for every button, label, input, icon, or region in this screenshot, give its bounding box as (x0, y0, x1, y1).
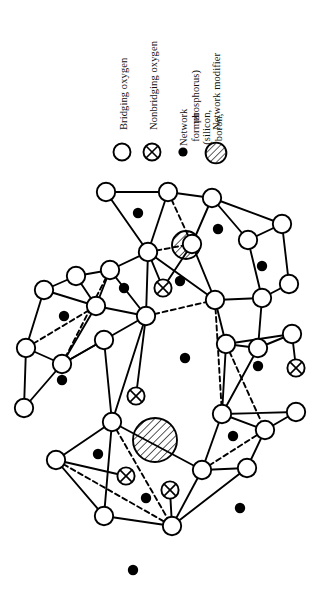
network-former-atom (180, 353, 190, 363)
legend: Bridging oxygen Nonbridging oxygen Netwo… (0, 0, 334, 172)
bridging-oxygen-atom (97, 183, 115, 201)
network-former-atom (253, 361, 263, 371)
bond-dashed (146, 300, 215, 316)
network-former-atom (257, 261, 267, 271)
bridging-oxygen-atom (287, 403, 305, 421)
bridging-oxygen-atom (253, 289, 271, 307)
bridging-oxygen-atom (17, 339, 35, 357)
bond-solid (222, 412, 296, 414)
bridging-oxygen-atom (139, 243, 157, 261)
bridging-oxygen-atom (280, 275, 298, 293)
bridging-oxygen-atom (53, 355, 71, 373)
bridging-oxygen-atom (163, 517, 181, 535)
legend-label-network-modifier: Network modifier (211, 53, 223, 130)
network-former-atom (175, 276, 185, 286)
bridging-oxygen-atom (137, 307, 155, 325)
bridging-oxygen-atom (273, 215, 291, 233)
legend-label-nonbridging-oxygen: Nonbridging oxygen (148, 41, 160, 130)
network-former-atom (213, 224, 223, 234)
network-former-atom (57, 375, 67, 385)
network-modifier-symbol (201, 138, 231, 168)
bond-solid (104, 422, 112, 516)
nonbridging-oxygen-atom (117, 467, 134, 484)
bridging-oxygen-atom (87, 297, 105, 315)
bridging-oxygen-atom (203, 189, 221, 207)
network-former-atom (128, 565, 138, 575)
nonbridging-oxygen-atom (127, 387, 144, 404)
network-former-atom (119, 283, 129, 293)
bridging-oxygen-atom (217, 335, 235, 353)
bond-solid (222, 344, 226, 414)
network-modifier-ion (133, 418, 177, 462)
network-former-atom (133, 208, 143, 218)
bridging-oxygen-atom (159, 183, 177, 201)
network-former-atom (59, 311, 69, 321)
bridging-oxygen-atom (206, 291, 224, 309)
network-former-atom (235, 503, 245, 513)
nonbridging-oxygen-atom (287, 359, 304, 376)
bridging-oxygen-atom (256, 421, 274, 439)
bond-solid (56, 422, 112, 460)
legend-label-network-former-line2: phosphorus) (190, 70, 202, 123)
bridging-oxygen-atom (283, 325, 301, 343)
bridging-oxygen-atom (239, 231, 257, 249)
nonbridging-oxygen-symbol (138, 138, 166, 166)
bridging-oxygen-atom (238, 459, 256, 477)
bridging-oxygen-atom (15, 399, 33, 417)
bridging-oxygen-atom (193, 461, 211, 479)
bridging-oxygen-atom (213, 405, 231, 423)
network-structure-diagram (0, 168, 334, 593)
network-former-atom (141, 493, 151, 503)
bridging-oxygen-atom (95, 507, 113, 525)
bond-solid (222, 348, 258, 414)
bridging-oxygen-atom (103, 413, 121, 431)
bridging-oxygen-layer (15, 183, 305, 535)
bridging-oxygen-atom (95, 331, 113, 349)
bridging-oxygen-atom (67, 267, 85, 285)
nonbridging-oxygen-atom (161, 481, 178, 498)
bridging-oxygen-atom (35, 281, 53, 299)
bridging-oxygen-symbol (108, 138, 136, 166)
bridging-oxygen-atom (183, 235, 201, 253)
legend-label-bridging-oxygen: Bridging oxygen (118, 58, 130, 130)
bridging-oxygen-atom (101, 261, 119, 279)
figure-canvas: Bridging oxygen Nonbridging oxygen Netwo… (0, 0, 334, 593)
nonbridging-oxygen-atom (154, 279, 171, 296)
bond-solid (104, 340, 112, 422)
bond-solid (106, 192, 148, 252)
network-former-atom (93, 449, 103, 459)
network-former-atom (228, 431, 238, 441)
bond-solid (136, 316, 146, 396)
bridging-oxygen-atom (47, 451, 65, 469)
bridging-oxygen-atom (249, 339, 267, 357)
network-former-symbol (169, 138, 197, 166)
